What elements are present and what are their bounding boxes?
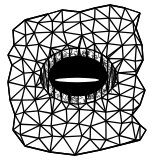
airfoil-mesh-diagram [0, 0, 156, 164]
airfoil-shape [55, 78, 99, 82]
